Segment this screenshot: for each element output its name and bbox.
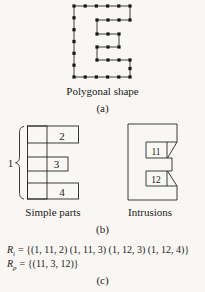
equation-r-i: Ri= {(1, 11, 2) (1, 11, 3) (1, 12, 3) (1…	[7, 243, 189, 257]
polygonal-shape-e	[72, 4, 131, 78]
intrusions-outline	[128, 124, 177, 200]
simple-part-rect-4	[28, 183, 79, 199]
intrusion-11-label: 11	[151, 147, 160, 157]
polygon-vertex-dot	[128, 75, 131, 78]
polygon-vertex-dot	[106, 18, 109, 21]
figure-label-c: (c)	[0, 274, 205, 286]
caption-polygonal-shape: Polygonal shape	[0, 85, 205, 97]
polygon-vertex-dot	[117, 75, 120, 78]
polygon-vertex-dot	[117, 4, 120, 7]
polygon-vertex-dot	[128, 58, 131, 61]
part-2-label: 2	[59, 130, 65, 142]
polygon-vertex-dot	[106, 4, 109, 7]
polygon-vertex-dot	[72, 4, 75, 7]
intrusion-11-diagonal	[168, 142, 178, 158]
simple-part-rect-3	[28, 157, 69, 171]
polygon-vertex-dot	[95, 4, 98, 7]
polygon-vertex-dot	[95, 58, 98, 61]
polygon-vertex-dot	[72, 16, 75, 19]
equation-r-p: Rp= {(11, 3, 12)}	[7, 257, 189, 271]
intrusion-12-label: 12	[151, 175, 161, 185]
polygon-vertex-dot	[95, 32, 98, 35]
polygon-vertex-dot	[106, 75, 109, 78]
polygon-vertex-dot	[128, 67, 131, 70]
e-vertex-dots	[72, 4, 131, 78]
polygon-vertex-dot	[106, 32, 109, 35]
polygon-vertex-dot	[95, 45, 98, 48]
polygon-vertex-dot	[117, 58, 120, 61]
simple-part-rect-1-spine	[28, 126, 48, 199]
simple-parts-figure: 1 2 3 4	[8, 126, 79, 199]
polygon-vertex-dot	[84, 4, 87, 7]
polygon-vertex-dot	[72, 64, 75, 67]
polygon-vertex-dot	[106, 58, 109, 61]
polygon-vertex-dot	[72, 28, 75, 31]
part-3-label: 3	[54, 158, 60, 170]
polygon-vertex-dot	[117, 18, 120, 21]
part-4-label: 4	[59, 186, 65, 198]
polygon-vertex-dot	[128, 4, 131, 7]
equation-subscript: p	[13, 264, 17, 272]
part-1-label: 1	[8, 157, 14, 169]
polygon-vertex-dot	[117, 45, 120, 48]
brace-part-1	[16, 127, 25, 200]
polygon-vertex-dot	[95, 75, 98, 78]
caption-simple-parts: Simple parts	[0, 206, 106, 218]
intrusion-12-diagonal	[168, 171, 178, 186]
relations-block: Ri= {(1, 11, 2) (1, 11, 3) (1, 12, 3) (1…	[7, 243, 189, 270]
simple-part-rect-2	[28, 126, 79, 143]
polygon-vertex-dot	[106, 45, 109, 48]
equation-body: = {(11, 3, 12)}	[20, 258, 79, 269]
polygon-vertex-dot	[72, 75, 75, 78]
polygon-vertex-dot	[72, 52, 75, 55]
figure-label-b: (b)	[0, 223, 205, 235]
polygon-vertex-dot	[117, 32, 120, 35]
equation-body: = {(1, 11, 2) (1, 11, 3) (1, 12, 3) (1, …	[18, 244, 189, 255]
polygon-vertex-dot	[72, 40, 75, 43]
polygon-vertex-dot	[84, 75, 87, 78]
figure-page: 1 2 3 4 11 12 Polygonal shape (a) Simple…	[0, 0, 205, 292]
caption-intrusions: Intrusions	[110, 206, 190, 218]
intrusions-figure: 11 12	[128, 124, 177, 200]
figure-label-a: (a)	[0, 102, 205, 114]
polygon-vertex-dot	[128, 18, 131, 21]
e-polygon-outline	[74, 6, 130, 77]
polygon-vertex-dot	[95, 18, 98, 21]
